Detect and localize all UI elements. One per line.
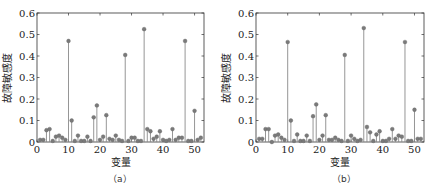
data-point-marker: [63, 138, 67, 142]
y-tick-label: 0.2: [19, 94, 35, 105]
data-point-marker: [267, 127, 271, 131]
data-point-marker: [41, 138, 45, 142]
data-point-marker: [308, 139, 312, 143]
data-point-marker: [311, 114, 315, 118]
data-point-marker: [387, 137, 391, 141]
data-point-marker: [92, 115, 96, 119]
data-point-marker: [359, 138, 363, 142]
y-tick-label: 0.4: [238, 51, 254, 62]
x-tick-label: 20: [94, 144, 107, 155]
data-point-marker: [368, 130, 372, 134]
stem-plot-b: 00.10.20.30.40.50.601020304050变量故障敏感度: [215, 0, 430, 194]
data-point-marker: [133, 136, 137, 140]
x-tick-label: 0: [253, 144, 259, 155]
data-point-marker: [123, 53, 127, 57]
data-point-marker: [409, 139, 413, 143]
plot-frame: [256, 13, 424, 142]
y-tick-label: 0.2: [238, 94, 254, 105]
y-tick-label: 0.6: [238, 8, 254, 19]
plot-frame: [37, 13, 204, 142]
data-point-marker: [413, 108, 417, 112]
data-point-marker: [120, 139, 124, 143]
y-tick-label: 0.1: [238, 115, 254, 126]
stem-plot-a: 00.10.20.30.40.50.601020304050变量故障敏感度: [0, 0, 215, 194]
data-point-marker: [343, 53, 347, 57]
data-point-marker: [101, 135, 105, 139]
chart-panel-b: 00.10.20.30.40.50.601020304050变量故障敏感度: [215, 0, 430, 194]
data-point-marker: [371, 139, 375, 143]
data-point-marker: [317, 138, 321, 142]
data-point-marker: [349, 134, 353, 138]
data-point-marker: [171, 127, 175, 131]
data-point-marker: [340, 139, 344, 143]
data-point-marker: [189, 139, 193, 143]
x-tick-label: 50: [408, 144, 421, 155]
panel-caption-a: （a）: [108, 172, 132, 185]
data-point-marker: [180, 136, 184, 140]
data-point-marker: [378, 129, 382, 133]
panel-caption-b: （b）: [332, 172, 356, 185]
x-tick-label: 50: [188, 144, 201, 155]
y-tick-label: 0.1: [19, 115, 35, 126]
chart-panel-a: 00.10.20.30.40.50.601020304050变量故障敏感度: [0, 0, 215, 194]
data-point-marker: [95, 104, 99, 108]
y-axis-label: 故障敏感度: [1, 53, 13, 103]
data-point-marker: [295, 133, 299, 137]
data-point-marker: [292, 139, 296, 143]
y-tick-label: 0.5: [19, 29, 35, 40]
data-point-marker: [149, 129, 153, 133]
x-tick-label: 20: [313, 144, 326, 155]
data-point-marker: [89, 139, 93, 143]
data-point-marker: [346, 139, 350, 143]
y-tick-label: 0.6: [19, 8, 35, 19]
x-tick-label: 30: [345, 144, 358, 155]
y-axis-label: 故障敏感度: [220, 53, 232, 103]
y-tick-label: 0.5: [238, 29, 254, 40]
data-point-marker: [289, 119, 293, 123]
data-point-marker: [400, 135, 404, 139]
x-tick-label: 0: [34, 144, 40, 155]
data-point-marker: [283, 138, 287, 142]
data-point-marker: [82, 139, 86, 143]
data-point-marker: [314, 102, 318, 106]
data-point-marker: [321, 134, 325, 138]
data-point-marker: [394, 137, 398, 141]
data-point-marker: [276, 133, 280, 137]
x-tick-label: 40: [157, 144, 170, 155]
data-point-marker: [70, 119, 74, 123]
data-point-marker: [365, 125, 369, 129]
data-point-marker: [362, 26, 366, 30]
data-point-marker: [155, 135, 159, 139]
data-point-marker: [142, 27, 146, 31]
x-tick-label: 10: [281, 144, 294, 155]
data-point-marker: [86, 135, 90, 139]
data-point-marker: [193, 109, 197, 113]
data-point-marker: [302, 139, 306, 143]
data-point-marker: [324, 113, 328, 117]
data-point-marker: [158, 129, 162, 133]
data-point-marker: [375, 133, 379, 137]
data-point-marker: [403, 40, 407, 44]
x-axis-label: 变量: [111, 156, 131, 168]
y-tick-label: 0.4: [19, 51, 35, 62]
data-point-marker: [286, 40, 290, 44]
data-point-marker: [390, 127, 394, 131]
data-point-marker: [183, 39, 187, 43]
data-point-marker: [305, 134, 309, 138]
data-point-marker: [270, 140, 274, 144]
data-point-marker: [67, 39, 71, 43]
data-point-marker: [48, 127, 52, 131]
data-point-marker: [51, 139, 55, 143]
data-point-marker: [167, 138, 171, 142]
data-point-marker: [139, 139, 143, 143]
data-point-marker: [73, 139, 77, 143]
x-tick-label: 40: [376, 144, 389, 155]
data-point-marker: [76, 134, 80, 138]
y-tick-label: 0.3: [19, 72, 35, 83]
data-point-marker: [419, 137, 423, 141]
data-point-marker: [98, 138, 102, 142]
y-tick-label: 0.3: [238, 72, 254, 83]
data-point-marker: [104, 113, 108, 117]
x-tick-label: 30: [125, 144, 138, 155]
data-point-marker: [126, 139, 130, 143]
